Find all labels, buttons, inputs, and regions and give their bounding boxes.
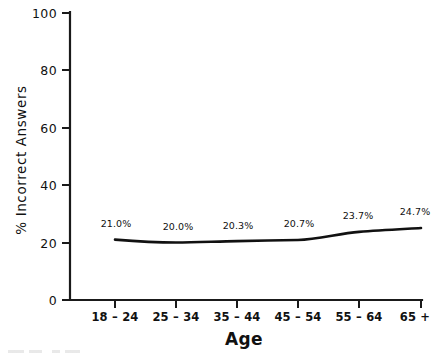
x-tick-label: 45 – 54	[274, 310, 321, 324]
data-point-label: 20.0%	[163, 221, 194, 232]
x-tick-group	[115, 300, 421, 308]
y-tick-label: 40	[40, 178, 57, 193]
data-point-label: 20.7%	[284, 218, 315, 229]
chart-container: 100 80 60 40 20 0 18 – 24 25 – 34 35 – 4…	[0, 0, 438, 356]
x-axis-title: Age	[225, 329, 263, 349]
x-tick-label: 25 – 34	[152, 310, 199, 324]
y-tick-label: 0	[49, 293, 57, 308]
x-tick-label: 35 – 44	[213, 310, 260, 324]
y-tick-group	[62, 13, 70, 300]
data-point-label: 20.3%	[223, 220, 254, 231]
line-chart: 100 80 60 40 20 0 18 – 24 25 – 34 35 – 4…	[0, 0, 438, 356]
y-tick-label: 80	[40, 63, 57, 78]
y-tick-label: 100	[32, 6, 57, 21]
y-tick-label: 20	[40, 236, 57, 251]
data-point-label: 23.7%	[343, 210, 374, 221]
data-series-line	[115, 228, 421, 243]
page-edge-artifact	[8, 346, 178, 355]
x-tick-label: 65 +	[400, 310, 430, 324]
data-point-label: 21.0%	[101, 218, 132, 229]
y-tick-label: 60	[40, 121, 57, 136]
x-tick-label: 18 – 24	[91, 310, 138, 324]
x-tick-label: 55 – 64	[335, 310, 382, 324]
y-axis-title: % Incorrect Answers	[13, 85, 29, 234]
data-point-label: 24.7%	[400, 206, 431, 217]
